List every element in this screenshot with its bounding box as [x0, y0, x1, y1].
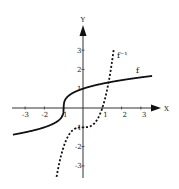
- chart: X Y -3-2-1123 -3-2-1123 f⁻¹ f: [0, 0, 179, 189]
- y-tick-label: 2: [77, 66, 81, 74]
- y-axis-arrow-icon: [80, 25, 87, 36]
- series-label-f: f: [136, 66, 140, 75]
- x-axis-label: X: [164, 105, 169, 113]
- y-tick-label: 3: [77, 47, 81, 55]
- axes: X Y -3-2-1123 -3-2-1123: [12, 16, 169, 178]
- x-tick-label: 1: [103, 111, 107, 119]
- series-label-f-inverse: f⁻¹: [117, 51, 127, 60]
- x-tick-label: -3: [22, 111, 29, 119]
- x-tick-label: -2: [41, 111, 48, 119]
- y-tick-label: -2: [75, 143, 82, 151]
- y-axis-label: Y: [80, 16, 86, 24]
- y-tick-label: -3: [75, 162, 82, 170]
- x-tick-label: 2: [123, 111, 127, 119]
- x-tick-label: 3: [142, 111, 146, 119]
- x-axis-arrow-icon: [151, 105, 161, 112]
